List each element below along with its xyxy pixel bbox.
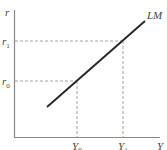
lm-diagram: r Y LM r1 r0 Y0 Y1	[0, 0, 167, 150]
lm-curve	[47, 21, 145, 107]
r0-tick-label: r0	[2, 75, 10, 90]
y1-tick-label: Y1	[118, 140, 128, 150]
y-axis-label: r	[5, 6, 10, 18]
lm-label: LM	[146, 9, 163, 21]
y0-tick-label: Y0	[72, 140, 82, 150]
r1-tick-label: r1	[2, 35, 10, 50]
x-axis-label: Y	[157, 140, 165, 150]
